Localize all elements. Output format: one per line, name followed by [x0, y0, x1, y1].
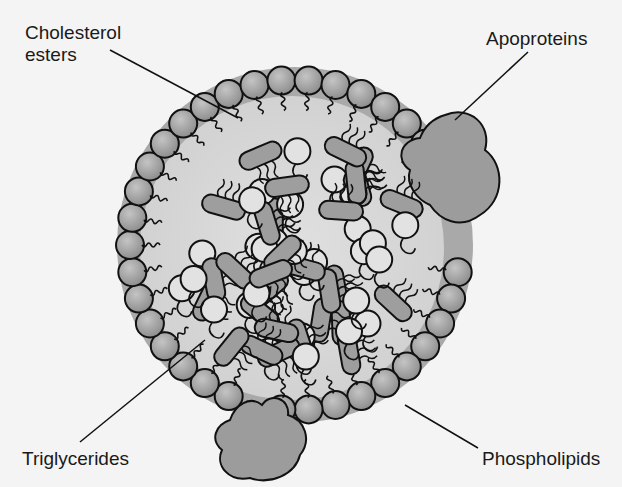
phospholipid-head: [118, 204, 146, 232]
leader-phospholipids: [405, 405, 478, 448]
phospholipid-head: [125, 177, 153, 205]
cholesterol-ester: [366, 247, 392, 273]
label-esters: esters: [25, 44, 121, 66]
cholesterol-ester: [239, 187, 265, 213]
phospholipid-head: [267, 67, 295, 95]
cholesterol-ester: [181, 266, 207, 292]
leader-apoproteins: [455, 52, 528, 120]
cholesterol-ester: [284, 138, 310, 164]
phospholipid-head: [241, 71, 269, 99]
label-cholesterol: Cholesterol: [25, 22, 121, 44]
phospholipid-head: [116, 231, 144, 259]
leader-triglycerides: [80, 340, 205, 442]
label-triglycerides: Triglycerides: [22, 448, 129, 470]
lipoprotein-diagram: [0, 0, 622, 487]
cholesterol-ester: [293, 344, 319, 370]
phospholipid-head: [136, 310, 164, 338]
cholesterol-ester: [336, 318, 362, 344]
label-apoproteins: Apoproteins: [486, 28, 587, 50]
phospholipid-head: [125, 285, 153, 313]
phospholipid-head: [437, 285, 465, 313]
cholesterol-ester: [343, 288, 369, 314]
phospholipid-head: [347, 382, 375, 410]
label-cholesterol-esters: Cholesterol esters: [25, 22, 121, 66]
cholesterol-ester: [201, 297, 227, 323]
phospholipid-head: [215, 80, 243, 108]
phospholipid-head: [295, 395, 323, 423]
cholesterol-ester: [392, 212, 418, 238]
phospholipid-head: [322, 391, 350, 419]
label-phospholipids: Phospholipids: [482, 448, 600, 470]
phospholipid-head: [322, 71, 350, 99]
phospholipid-head: [118, 258, 146, 286]
phospholipid-head: [295, 67, 323, 95]
phospholipid-head: [444, 258, 472, 286]
